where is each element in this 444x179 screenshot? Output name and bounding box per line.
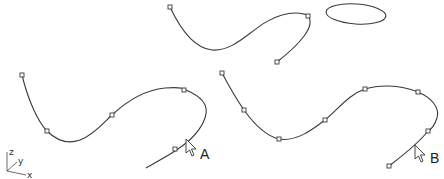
curve-editing-diagram: A B z y x bbox=[0, 0, 444, 179]
pointer-arrow-icon bbox=[415, 145, 425, 162]
diagram-svg: A B z y x bbox=[0, 0, 444, 179]
pointer-arrow-icon bbox=[186, 139, 196, 156]
axis-z-label: z bbox=[9, 147, 14, 157]
control-point[interactable] bbox=[110, 113, 114, 117]
control-point[interactable] bbox=[416, 90, 420, 94]
control-point[interactable] bbox=[275, 60, 279, 64]
label-b: B bbox=[430, 150, 439, 166]
control-point[interactable] bbox=[323, 118, 327, 122]
control-point[interactable] bbox=[363, 87, 367, 91]
ellipse-shape[interactable] bbox=[325, 2, 386, 26]
axis-x-label: x bbox=[27, 170, 33, 179]
curve-b: B bbox=[220, 71, 439, 168]
control-point[interactable] bbox=[220, 71, 224, 75]
control-point[interactable] bbox=[168, 5, 172, 9]
control-point[interactable] bbox=[173, 147, 177, 151]
control-point[interactable] bbox=[20, 73, 24, 77]
curve-a: A bbox=[20, 73, 210, 168]
control-point[interactable] bbox=[387, 164, 391, 168]
control-point[interactable] bbox=[182, 88, 186, 92]
control-point[interactable] bbox=[277, 137, 281, 141]
label-a: A bbox=[200, 146, 210, 162]
control-point[interactable] bbox=[306, 14, 310, 18]
control-point[interactable] bbox=[426, 129, 430, 133]
axis-y-label: y bbox=[18, 156, 24, 166]
control-point[interactable] bbox=[242, 108, 246, 112]
top-curve bbox=[168, 5, 310, 64]
control-point[interactable] bbox=[45, 129, 49, 133]
